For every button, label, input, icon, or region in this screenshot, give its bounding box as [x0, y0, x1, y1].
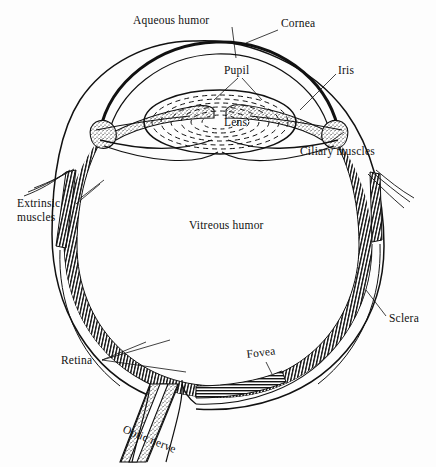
- eye-anatomy-figure: Aqueous humor Cornea Pupil Iris Lens Cil…: [0, 0, 436, 467]
- label-fovea: Fovea: [246, 345, 276, 360]
- eye-diagram-svg: Aqueous humor Cornea Pupil Iris Lens Cil…: [0, 0, 436, 467]
- label-cornea: Cornea: [281, 17, 315, 29]
- label-aqueous-humor: Aqueous humor: [133, 14, 209, 27]
- label-extrinsic-muscles-line1: Extrinsic: [17, 197, 60, 209]
- fovea: [196, 371, 286, 398]
- label-retina: Retina: [61, 354, 92, 366]
- label-lens: Lens: [224, 116, 247, 128]
- label-vitreous-humor: Vitreous humor: [189, 219, 264, 231]
- label-ciliary-muscles: Ciliary muscles: [300, 145, 375, 158]
- label-pupil: Pupil: [224, 64, 249, 77]
- label-iris: Iris: [338, 64, 354, 76]
- label-extrinsic-muscles-line2: muscles: [17, 211, 56, 223]
- iris: [90, 105, 348, 149]
- label-sclera: Sclera: [389, 312, 419, 324]
